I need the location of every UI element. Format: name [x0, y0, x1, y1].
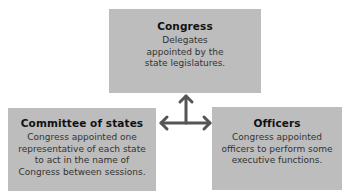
committee-of-states-box: Committee of states Congress appointed o…	[8, 108, 156, 191]
arrowhead-right-icon	[204, 117, 210, 129]
arrowhead-left-icon	[161, 117, 167, 129]
arrowhead-up-icon	[180, 96, 192, 102]
committee-of-states-description: Congress appointed one representative of…	[8, 132, 156, 178]
congress-description: Delegates appointed by the state legisla…	[109, 35, 261, 70]
officers-box: Officers Congress appointed officers to …	[212, 107, 342, 190]
committee-of-states-title: Committee of states	[8, 117, 156, 130]
officers-title: Officers	[212, 117, 342, 130]
congress-box: Congress Delegates appointed by the stat…	[109, 9, 261, 93]
officers-description: Congress appointed officers to perform s…	[212, 132, 342, 167]
congress-title: Congress	[109, 20, 261, 33]
